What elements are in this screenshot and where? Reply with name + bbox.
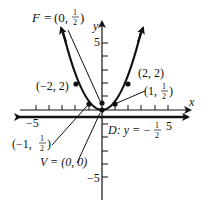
point-right-1-num: 1 [162, 82, 166, 91]
point-left-2 [73, 81, 78, 86]
directrix-num: 1 [155, 121, 159, 130]
point-right-1-close: ) [169, 84, 173, 98]
point-right-2-label: (2, 2) [138, 66, 164, 80]
x-tick-5: 5 [166, 119, 172, 133]
leader-lines [52, 30, 145, 163]
point-right-2 [125, 81, 130, 86]
focus-label-lhs: F = [31, 10, 52, 25]
point-left-2-label: (−2, 2) [36, 79, 69, 93]
focus-label-close: ) [80, 10, 84, 25]
point-right-1-den: 2 [162, 92, 166, 101]
point-right-1-label-open: (1, [144, 84, 157, 98]
point-right-1 [112, 101, 117, 106]
focus-label-open: (0, [54, 10, 68, 25]
x-tick-neg5: −5 [26, 116, 39, 130]
x-axis-label: x [188, 95, 195, 109]
y-tick-neg5: −5 [87, 171, 100, 185]
point-left-1 [86, 101, 91, 106]
point-left-1-close: ) [47, 137, 51, 151]
focus-half-num: 1 [73, 8, 77, 17]
point-left-1-den: 2 [40, 144, 44, 153]
focus-point [99, 100, 104, 105]
vertex-point [99, 107, 104, 112]
parabola-diagram: F = (0, 1 2 ) y 5 (−2, 2) (2, 2) (1, 1 2… [0, 0, 202, 203]
focus-half-den: 2 [73, 18, 77, 27]
point-left-1-label-open: (−1, [12, 137, 32, 151]
directrix-den: 2 [155, 131, 159, 140]
axes [20, 22, 190, 200]
vertex-label: V = (0, 0) [40, 155, 87, 169]
y-axis-label: y [92, 19, 99, 33]
directrix-label: D: y = − [107, 123, 151, 137]
point-left-1-num: 1 [40, 134, 44, 143]
y-tick-5: 5 [94, 35, 100, 49]
